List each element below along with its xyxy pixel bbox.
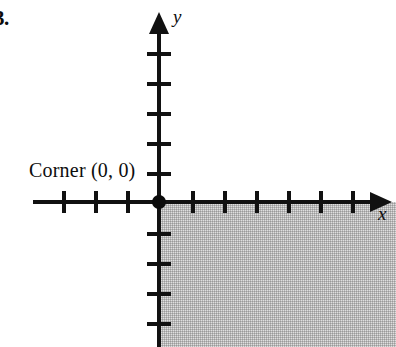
- y-axis-tick: [147, 112, 171, 116]
- shaded-feasible-region: [159, 202, 396, 347]
- x-axis-line: [33, 200, 378, 204]
- y-axis-tick: [147, 262, 171, 266]
- x-axis-tick: [62, 191, 66, 213]
- y-axis-line: [157, 28, 161, 347]
- x-axis-tick: [191, 191, 195, 213]
- problem-number-label: 3.: [0, 6, 9, 31]
- x-axis-tick: [319, 191, 323, 213]
- x-axis-tick: [223, 191, 227, 213]
- y-axis-tick: [147, 172, 171, 176]
- origin-corner-point: [152, 195, 166, 209]
- y-axis-tick: [147, 52, 171, 56]
- y-axis-tick: [147, 322, 171, 326]
- x-axis-tick: [126, 191, 130, 213]
- x-axis-label: x: [378, 203, 386, 225]
- x-axis-tick: [351, 191, 355, 213]
- x-axis-tick: [287, 191, 291, 213]
- y-axis-tick: [147, 232, 171, 236]
- figure-canvas: 3. y x Corner (0, 0): [0, 0, 396, 347]
- x-axis-tick: [94, 191, 98, 213]
- y-axis-tick: [147, 292, 171, 296]
- y-axis-arrow-icon: [149, 12, 169, 34]
- y-axis-label: y: [173, 6, 181, 28]
- y-axis-tick: [147, 142, 171, 146]
- y-axis-tick: [147, 82, 171, 86]
- x-axis-tick: [255, 191, 259, 213]
- corner-annotation-label: Corner (0, 0): [29, 159, 135, 182]
